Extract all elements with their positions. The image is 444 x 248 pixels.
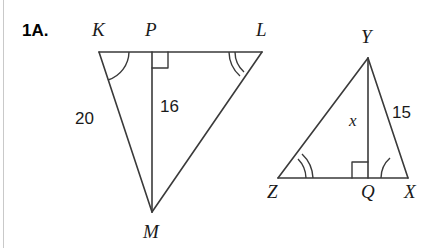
vertex-label-y: Y xyxy=(361,27,372,46)
vertex-label-x: X xyxy=(404,182,416,201)
altitude-length-yq: x xyxy=(349,112,357,129)
segment-km xyxy=(99,52,152,212)
angle-mark-l xyxy=(229,52,244,76)
side-length-km: 20 xyxy=(75,110,94,127)
angle-mark-z xyxy=(298,154,313,178)
right-angle-mark-q xyxy=(352,162,368,178)
vertex-label-m: M xyxy=(143,222,159,241)
segment-lm xyxy=(152,52,262,212)
side-length-yx: 15 xyxy=(392,104,411,121)
vertex-label-k: K xyxy=(92,20,105,39)
angle-mark-x xyxy=(381,158,390,178)
vertex-label-z: Z xyxy=(267,182,278,201)
right-angle-mark-p xyxy=(152,52,168,68)
triangle-klm xyxy=(99,52,262,212)
altitude-length-pm: 16 xyxy=(160,98,179,115)
figure-canvas xyxy=(0,0,444,248)
geometry-figure: 1A. xyxy=(0,0,444,248)
vertex-label-p: P xyxy=(145,20,157,39)
vertex-label-l: L xyxy=(256,20,267,39)
vertex-label-q: Q xyxy=(361,182,375,201)
angle-mark-k xyxy=(108,52,129,80)
